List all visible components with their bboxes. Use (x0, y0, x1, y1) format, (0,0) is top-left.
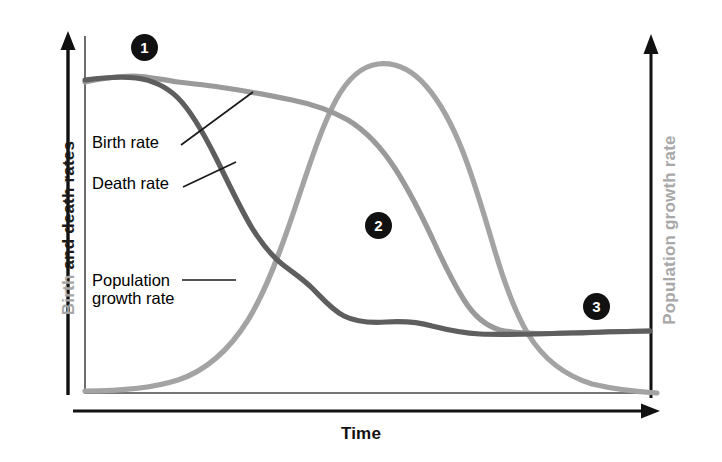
y-axis-left-title: Birth and death rates (59, 98, 79, 358)
y-axis-left-title-lead: Birth (59, 274, 78, 315)
y-axis-left-title-rest: and death rates (59, 141, 78, 275)
y-axis-right-title: Population growth rate (660, 95, 680, 365)
stage-marker-2: 2 (365, 212, 392, 239)
chart-canvas (0, 0, 722, 462)
stage-marker-1: 1 (131, 34, 158, 61)
right-axis-arrow (644, 34, 659, 398)
population-growth-rate-label-line2: growth rate (92, 289, 175, 307)
x-axis-title: Time (0, 424, 722, 444)
time-axis-arrow (73, 404, 660, 419)
death-rate-label: Death rate (92, 174, 169, 192)
population-growth-rate-label: Populationgrowth rate (92, 271, 175, 308)
birth-rate-label: Birth rate (92, 133, 159, 151)
demographic-transition-figure: Birth and death rates Population growth … (0, 0, 722, 462)
stage-marker-3: 3 (583, 293, 610, 320)
population-growth-rate-label-line1: Population (92, 271, 175, 289)
